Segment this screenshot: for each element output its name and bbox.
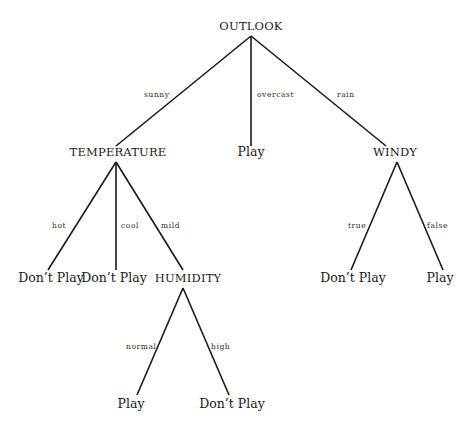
edge-label-true: true [348, 222, 366, 230]
node-temperature: TEMPERATURE [70, 147, 167, 159]
edge-label-false: false [427, 222, 448, 230]
edge-label-overcast: overcast [257, 91, 294, 99]
leaf-cool-dont-play: Don’t Play [81, 272, 147, 285]
edge-label-rain: rain [337, 91, 355, 99]
node-windy: WINDY [373, 147, 417, 159]
leaf-overcast-play: Play [238, 146, 265, 159]
edge-true [351, 162, 397, 270]
edge-sunny [116, 36, 251, 146]
edge-hot [48, 162, 116, 270]
node-outlook: OUTLOOK [219, 21, 282, 33]
edge-label-normal: normal [126, 343, 157, 351]
edge-false [397, 162, 443, 270]
edge-mild [116, 162, 183, 270]
leaf-high-dont-play: Don’t Play [199, 398, 265, 411]
leaf-true-dont-play: Don’t Play [320, 272, 386, 285]
node-humidity: HUMIDITY [155, 273, 222, 285]
edge-label-hot: hot [52, 222, 66, 230]
leaf-false-play: Play [427, 272, 454, 285]
decision-tree-edges [0, 0, 472, 433]
edge-label-sunny: sunny [144, 91, 170, 99]
edge-label-cool: cool [121, 222, 139, 230]
edge-label-mild: mild [161, 222, 180, 230]
leaf-normal-play: Play [118, 398, 145, 411]
edge-label-high: high [211, 343, 230, 351]
leaf-hot-dont-play: Don’t Play [18, 272, 84, 285]
